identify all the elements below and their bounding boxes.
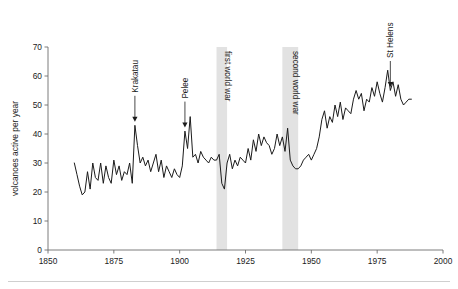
y-tick-label: 0 — [37, 245, 42, 255]
footer-divider — [8, 281, 450, 282]
data-line-volcanoes — [74, 70, 411, 195]
y-tick-label: 30 — [33, 158, 43, 168]
annotation-arrowhead-1 — [132, 117, 137, 122]
y-tick-label: 20 — [33, 187, 43, 197]
y-tick-label: 60 — [33, 71, 43, 81]
war-band-label-1: first world war — [223, 51, 232, 102]
annotation-label-2: Pelee — [181, 77, 190, 98]
x-tick-label: 1975 — [368, 256, 387, 266]
y-tick-label: 50 — [33, 100, 43, 110]
annotation-label-1: Krakatau — [131, 60, 140, 93]
y-tick-label: 70 — [33, 42, 43, 52]
y-tick-label: 40 — [33, 129, 43, 139]
x-tick-label: 1850 — [39, 256, 58, 266]
axis-lines — [48, 47, 443, 250]
x-tick-label: 1875 — [105, 256, 124, 266]
x-tick-label: 2000 — [434, 256, 453, 266]
x-tick-label: 1950 — [302, 256, 321, 266]
x-tick-label: 1925 — [236, 256, 255, 266]
x-tick-label: 1900 — [170, 256, 189, 266]
y-tick-label: 10 — [33, 216, 43, 226]
volcano-activity-chart: first world warsecond world war010203040… — [0, 0, 458, 289]
chart-canvas: first world warsecond world war010203040… — [0, 0, 458, 289]
y-axis-title: volcanoes active per year — [10, 101, 20, 196]
annotation-label-3: St Helens — [386, 23, 395, 59]
annotation-arrowhead-2 — [182, 123, 187, 128]
war-band-label-2: second world war — [291, 51, 300, 115]
